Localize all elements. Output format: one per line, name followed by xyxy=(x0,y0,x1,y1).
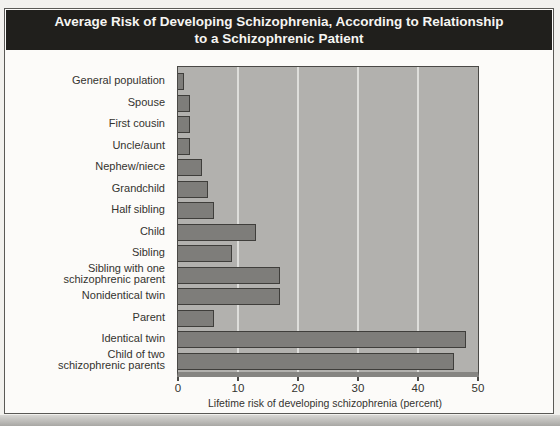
bar-row xyxy=(178,71,478,93)
bar-row xyxy=(178,179,478,201)
bar xyxy=(178,353,454,370)
category-label: First cousin xyxy=(5,113,171,135)
chart-title-bar: Average Risk of Developing Schizophrenia… xyxy=(6,10,552,50)
category-label: Uncle/aunt xyxy=(5,135,171,157)
bar-row xyxy=(178,157,478,179)
bar xyxy=(178,310,214,327)
bar xyxy=(178,95,190,112)
category-label: Sibling xyxy=(5,242,171,264)
bar xyxy=(178,245,232,262)
tick-label: 0 xyxy=(175,382,181,394)
bar-row xyxy=(178,329,478,351)
page-background: Average Risk of Developing Schizophrenia… xyxy=(0,0,560,426)
tick-mark xyxy=(477,377,479,381)
category-label: Identical twin xyxy=(5,328,171,350)
bar-row xyxy=(178,351,478,373)
scan-artifact-strip xyxy=(0,415,560,426)
plot-area xyxy=(177,66,479,377)
bar xyxy=(178,202,214,219)
x-axis-label: Lifetime risk of developing schizophreni… xyxy=(155,397,495,409)
chart-title-line-2: to a Schizophrenic Patient xyxy=(6,31,552,48)
tick-mark xyxy=(357,377,359,381)
category-label: Sibling with one schizophrenic parent xyxy=(5,264,171,286)
figure-frame: Average Risk of Developing Schizophrenia… xyxy=(4,8,554,414)
bar xyxy=(178,116,190,133)
bars-layer xyxy=(178,67,478,372)
bar-row xyxy=(178,200,478,222)
tick-label: 40 xyxy=(412,382,425,394)
tick-label: 30 xyxy=(352,382,365,394)
bar-row xyxy=(178,136,478,158)
category-labels: General populationSpouseFirst cousinUncl… xyxy=(5,66,171,375)
category-label: Spouse xyxy=(5,92,171,114)
bar xyxy=(178,224,256,241)
bar xyxy=(178,181,208,198)
bar xyxy=(178,73,184,90)
bar-row xyxy=(178,286,478,308)
category-label: Child of two schizophrenic parents xyxy=(5,350,171,372)
tick-mark xyxy=(297,377,299,381)
category-label: Half sibling xyxy=(5,199,171,221)
bar-row xyxy=(178,308,478,330)
chart-title-line-1: Average Risk of Developing Schizophrenia… xyxy=(6,14,552,31)
tick-mark xyxy=(237,377,239,381)
category-label: Child xyxy=(5,221,171,243)
category-label: Nephew/niece xyxy=(5,156,171,178)
category-label: Grandchild xyxy=(5,178,171,200)
category-label: Nonidentical twin xyxy=(5,285,171,307)
bar xyxy=(178,288,280,305)
bar-row xyxy=(178,114,478,136)
bar-row xyxy=(178,243,478,265)
bar-row xyxy=(178,93,478,115)
tick-mark xyxy=(417,377,419,381)
bar-row xyxy=(178,222,478,244)
bar xyxy=(178,138,190,155)
tick-label: 50 xyxy=(472,382,485,394)
tick-label: 20 xyxy=(292,382,305,394)
bar-row xyxy=(178,265,478,287)
bar xyxy=(178,331,466,348)
category-label: Parent xyxy=(5,307,171,329)
category-label: General population xyxy=(5,70,171,92)
tick-label: 10 xyxy=(232,382,245,394)
tick-mark xyxy=(177,377,179,381)
bar xyxy=(178,267,280,284)
bar xyxy=(178,159,202,176)
